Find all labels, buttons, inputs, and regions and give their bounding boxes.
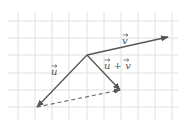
grid — [8, 12, 178, 120]
label-u-plus-v: u + v — [104, 59, 131, 72]
label-v-text: v — [122, 35, 128, 46]
vector-translated-v-arrow — [37, 90, 120, 107]
vector-diagram: v u u + v — [0, 0, 185, 125]
label-v: v — [122, 34, 128, 47]
label-u-text: u — [51, 66, 57, 77]
label-u: u — [51, 65, 57, 78]
vector-u-arrow — [37, 55, 87, 107]
